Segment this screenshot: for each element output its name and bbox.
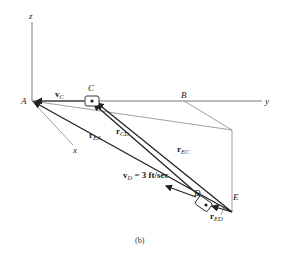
label-r-ec: rEC: [177, 144, 190, 155]
figure-caption: (b): [135, 236, 145, 245]
x-axis: [32, 101, 73, 145]
mechanics-diagram: z y x A B C D E vC rEA rCD rEC rED vD = …: [0, 0, 287, 266]
vector-r-cd: [94, 104, 209, 204]
point-c-label: C: [88, 83, 95, 93]
vector-r-ec: [97, 103, 232, 212]
point-a-label: A: [20, 96, 27, 106]
vector-r-ea: [34, 102, 232, 212]
label-v-c: vC: [55, 89, 65, 100]
label-r-ed: rED: [210, 211, 223, 222]
point-e-label: E: [232, 192, 239, 202]
z-axis-label: z: [28, 11, 33, 21]
point-b-label: B: [181, 90, 187, 100]
construction-line-a: [32, 101, 232, 130]
x-axis-label: x: [72, 145, 77, 155]
y-axis-label: y: [264, 96, 269, 106]
label-r-ea: rEA: [89, 130, 101, 141]
construction-line-b: [184, 101, 232, 130]
point-d-label: D: [193, 188, 201, 198]
vector-v-d: [166, 186, 196, 197]
label-v-d: vD = 3 ft/sec: [123, 170, 169, 181]
